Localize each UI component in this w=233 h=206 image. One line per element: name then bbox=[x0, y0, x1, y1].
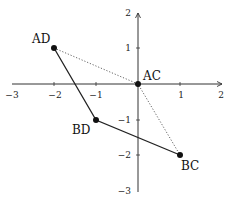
y-tick-label: −3 bbox=[118, 186, 132, 196]
diagram-svg: −3 −2 −1 1 2 2 1 −1 −2 −3 AD AC BD BC bbox=[0, 0, 233, 206]
point-bc bbox=[177, 152, 183, 158]
y-tick-label: −1 bbox=[118, 115, 131, 125]
y-tick-label: 1 bbox=[125, 43, 131, 53]
solid-path bbox=[54, 48, 180, 155]
point-bd bbox=[93, 117, 99, 123]
x-tick-label: −2 bbox=[48, 90, 61, 100]
dotted-path bbox=[54, 48, 180, 155]
y-tick-label: 2 bbox=[125, 8, 131, 18]
y-tick-label: −2 bbox=[118, 150, 131, 160]
point-ac bbox=[135, 81, 141, 87]
label-ac: AC bbox=[142, 69, 161, 83]
label-bd: BD bbox=[72, 123, 90, 137]
x-tick-label: −1 bbox=[89, 90, 102, 100]
x-tick-label: −3 bbox=[5, 90, 19, 100]
coordinate-diagram: −3 −2 −1 1 2 2 1 −1 −2 −3 AD AC BD BC bbox=[0, 0, 233, 206]
label-ad: AD bbox=[31, 32, 50, 46]
point-ad bbox=[51, 45, 57, 51]
label-bc: BC bbox=[181, 159, 199, 173]
x-tick-label: 1 bbox=[178, 90, 184, 100]
x-tick-label: 2 bbox=[218, 90, 224, 100]
